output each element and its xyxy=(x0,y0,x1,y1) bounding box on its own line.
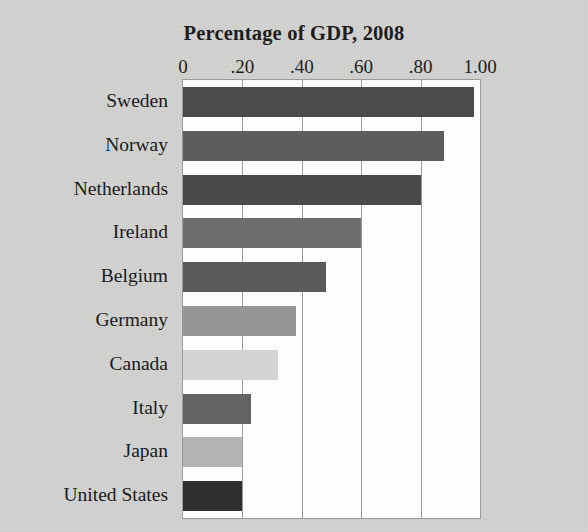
bar xyxy=(183,262,326,292)
bar xyxy=(183,481,242,511)
figure-canvas: Percentage of GDP, 2008 0.20.40.60.801.0… xyxy=(0,0,588,532)
bar xyxy=(183,87,474,117)
bar xyxy=(183,437,242,467)
x-tick-label: .20 xyxy=(231,56,255,78)
x-tick-label: .60 xyxy=(349,56,373,78)
category-label-belgium: Belgium xyxy=(0,261,176,291)
category-label-germany: Germany xyxy=(0,305,176,335)
x-tick-label: 0 xyxy=(178,56,188,78)
category-label-united-states: United States xyxy=(0,480,176,510)
category-label-canada: Canada xyxy=(0,349,176,379)
category-label-ireland: Ireland xyxy=(0,217,176,247)
bar xyxy=(183,218,361,248)
category-label-netherlands: Netherlands xyxy=(0,174,176,204)
y-axis-category-labels: SwedenNorwayNetherlandsIrelandBelgiumGer… xyxy=(0,79,176,519)
category-label-japan: Japan xyxy=(0,436,176,466)
chart-title: Percentage of GDP, 2008 xyxy=(0,22,588,45)
x-tick-label: 1.00 xyxy=(463,56,496,78)
bar xyxy=(183,175,421,205)
x-tick-label: .80 xyxy=(409,56,433,78)
plot-area xyxy=(182,79,481,519)
x-tick-label: .40 xyxy=(290,56,314,78)
bar-series xyxy=(183,80,480,518)
category-label-norway: Norway xyxy=(0,130,176,160)
x-axis-tick-labels: 0.20.40.60.801.00 xyxy=(0,56,588,78)
bar xyxy=(183,394,251,424)
bar xyxy=(183,350,278,380)
bar xyxy=(183,306,296,336)
bar xyxy=(183,131,444,161)
category-label-italy: Italy xyxy=(0,393,176,423)
category-label-sweden: Sweden xyxy=(0,86,176,116)
